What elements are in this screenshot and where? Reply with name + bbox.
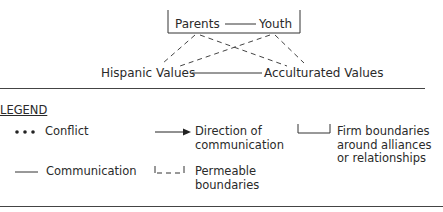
- legend-direction-label: Direction of communication: [195, 125, 284, 152]
- legend-communication-label: Communication: [46, 165, 137, 179]
- bottom-divider: [0, 206, 443, 207]
- youth-acculturated-dashed: [275, 35, 304, 63]
- node-youth: Youth: [259, 17, 292, 31]
- top-divider: [0, 88, 425, 89]
- legend-conflict-label: Conflict: [45, 125, 89, 139]
- conflict-dot-icon: [15, 130, 19, 134]
- arrowhead-icon: [183, 129, 191, 136]
- node-parents: Parents: [175, 17, 220, 31]
- parents-hispanic-dashed: [163, 35, 195, 63]
- node-acculturated-values: Acculturated Values: [264, 66, 383, 80]
- parents-acculturated-dashed: [200, 35, 287, 66]
- conflict-dot-icon: [23, 130, 27, 134]
- legend-firm-label: Firm boundaries around alliances or rela…: [337, 125, 431, 166]
- conflict-dot-icon: [31, 130, 35, 134]
- legend-permeable-label: Permeable boundaries: [195, 165, 259, 192]
- legend-title: LEGEND: [0, 104, 47, 118]
- youth-hispanic-dashed: [180, 35, 270, 66]
- firm-bracket-icon: [298, 124, 330, 133]
- node-hispanic-values: Hispanic Values: [101, 66, 195, 80]
